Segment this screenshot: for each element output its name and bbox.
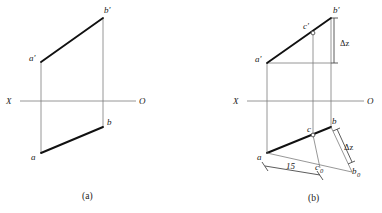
panel-b-label-c-zero-subscript: 0 [320, 167, 324, 174]
panel-b-auxiliary-baseline [267, 153, 352, 172]
panel-b-label-c-zero: c [315, 162, 319, 172]
panel-b-point-marker-c-prime [311, 31, 315, 35]
panel-b-label-b-zero-group: b 0 [352, 166, 361, 178]
figure-root: X O a' b' a b (a) [0, 0, 382, 213]
panel-a-axis-label-o: O [139, 96, 146, 106]
panel-a-axis-label-x: X [5, 96, 12, 106]
panel-a-label-b-prime: b' [104, 5, 112, 15]
panel-b-label-c-prime: c' [303, 21, 310, 31]
panel-b-label-b: b [332, 116, 337, 126]
panel-b-axis-label-x: X [232, 96, 239, 106]
panel-b-label-b-zero-subscript: 0 [357, 171, 361, 178]
panel-b-dimension-15-label: 15 [286, 161, 296, 171]
panel-b-top-view-segment [267, 127, 331, 153]
panel-b-label-c: c [307, 124, 311, 134]
panel-b-label-b-prime: b' [333, 5, 341, 15]
panel-a-caption: (a) [82, 191, 93, 202]
panel-a-label-a: a [31, 152, 36, 162]
panel-b-label-a: a [257, 152, 262, 162]
panel-b-axis-label-o: O [367, 96, 374, 106]
panel-a-group: X O a' b' a b (a) [5, 5, 146, 202]
panel-b-point-marker-c [311, 133, 315, 137]
panel-b-label-a-prime: a' [255, 54, 263, 64]
panel-b-delta-z-lower-tick-top [333, 128, 340, 131]
panel-b-delta-z-lower-label: Δz [344, 142, 353, 152]
panel-a-top-view-segment [41, 127, 103, 153]
panel-a-label-b: b [107, 117, 112, 127]
panel-b-group: Δz Δz 15 X O a' b' c' a b c c [232, 5, 374, 204]
panel-b-front-view-segment [267, 18, 331, 63]
panel-a-front-view-segment [41, 18, 103, 62]
panel-b-caption: (b) [308, 193, 319, 204]
panel-a-label-a-prime: a' [29, 53, 37, 63]
panel-b-delta-z-upper-label: Δz [340, 38, 349, 48]
technical-drawing-svg: X O a' b' a b (a) [0, 0, 382, 213]
